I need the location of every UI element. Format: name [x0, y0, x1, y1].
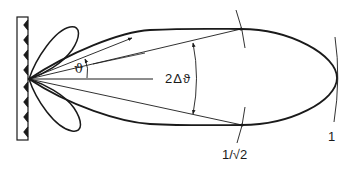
corrugated-wall — [17, 17, 28, 140]
lower-side-lobe — [29, 79, 81, 131]
diagram-svg — [0, 0, 354, 173]
theta-label: ϑ — [74, 62, 83, 75]
theta-angle-arc — [85, 59, 88, 78]
leader-line — [93, 53, 145, 64]
upper-half-power-point — [239, 27, 242, 30]
upper-half-power-ray — [29, 29, 241, 79]
beamwidth-label: 2Δϑ — [165, 72, 191, 85]
unit-level-label: 1 — [328, 130, 335, 143]
half-power-label: 1/√2 — [222, 148, 247, 161]
radiation-pattern-diagram: ϑ 2Δϑ 1/√2 1 — [0, 0, 354, 173]
lower-half-power-point — [240, 123, 243, 126]
lower-half-power-ray — [29, 79, 242, 125]
upper-side-lobe — [29, 27, 79, 79]
beamwidth-arc — [193, 43, 197, 114]
